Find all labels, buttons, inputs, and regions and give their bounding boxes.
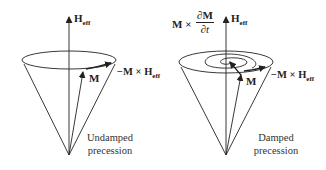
- damping-label-prefix: M ×: [172, 19, 191, 30]
- caption-line-2: precession: [84, 144, 136, 157]
- m-vector-arrow: [226, 75, 241, 155]
- heff-label-left: Heff: [74, 13, 90, 27]
- caption-damped: Damped precession: [248, 131, 304, 157]
- damping-spiral: [205, 54, 256, 68]
- fraction-numerator: ∂M: [196, 10, 214, 23]
- damping-fraction: ∂M ∂t: [196, 10, 214, 35]
- heff-label-right: Heff: [231, 13, 247, 27]
- torque-label-left: −M × Heff: [117, 67, 160, 80]
- caption-line-1: Damped: [248, 131, 304, 144]
- m-label-right: M: [246, 76, 256, 87]
- caption-line-2: precession: [248, 144, 304, 157]
- caption-line-1: Undamped: [84, 131, 136, 144]
- caption-undamped: Undamped precession: [84, 131, 136, 157]
- torque-arrow: [86, 63, 111, 69]
- fraction-denominator: ∂t: [201, 23, 210, 35]
- precession-diagram: Heff M −M × Heff Undamped precession M ×…: [0, 0, 326, 170]
- m-label-left: M: [89, 73, 99, 84]
- torque-label-right: −M × Heff: [271, 70, 314, 83]
- m-vector-arrow: [69, 72, 83, 155]
